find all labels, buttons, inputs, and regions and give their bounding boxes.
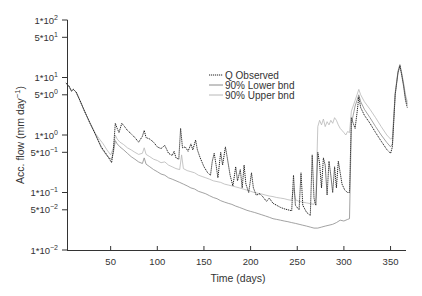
legend: Q Observed 90% Lower bnd 90% Upper bnd <box>209 70 295 101</box>
y-tick-label: 5*101 <box>35 31 59 43</box>
x-axis-ticks: 50100150200250300350 <box>105 246 398 267</box>
y-tick-label: 5*100 <box>35 88 59 100</box>
x-tick-label: 350 <box>383 256 399 267</box>
y-tick-label: 1*102 <box>35 14 59 26</box>
y-tick-label: 5*10−2 <box>30 203 58 215</box>
y-tick-label: 1*100 <box>35 129 59 141</box>
x-tick-label: 150 <box>196 256 212 267</box>
y-tick-label: 1*10−2 <box>30 244 58 256</box>
x-tick-label: 200 <box>243 256 259 267</box>
y-axis-title: Acc. flow (mm day−1) <box>13 86 26 184</box>
y-axis-ticks: 1*1025*1011*1015*1001*1005*10−11*10−15*1… <box>30 14 67 256</box>
x-tick-label: 300 <box>336 256 352 267</box>
y-tick-label: 5*10−1 <box>30 146 58 158</box>
x-tick-label: 250 <box>289 256 305 267</box>
legend-label-upper: 90% Upper bnd <box>225 90 295 101</box>
x-axis-title: Time (days) <box>210 272 265 284</box>
y-tick-label: 1*101 <box>35 71 59 83</box>
x-tick-label: 50 <box>105 256 116 267</box>
y-tick-label: 1*10−1 <box>30 186 58 198</box>
legend-item-upper: 90% Upper bnd <box>209 90 295 101</box>
x-tick-label: 100 <box>149 256 165 267</box>
chart: 1*1025*1011*1015*1001*1005*10−11*10−15*1… <box>0 0 422 296</box>
